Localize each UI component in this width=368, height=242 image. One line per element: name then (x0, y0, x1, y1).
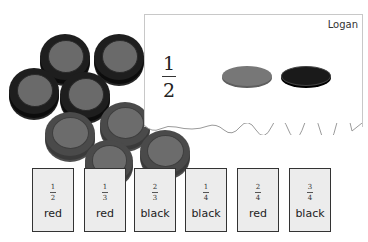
card-fraction: 3 4 (290, 183, 330, 202)
card-denominator: 4 (256, 194, 260, 202)
card-color-label: red (238, 207, 278, 220)
fraction-card[interactable]: 1 3 red (84, 168, 126, 232)
card-denominator: 4 (308, 194, 312, 202)
card-color-label: black (290, 207, 330, 220)
fraction-card[interactable]: 3 4 black (289, 168, 331, 232)
card-color-label: red (85, 207, 125, 220)
card-color-label: black (135, 207, 175, 220)
fraction-denominator: 2 (163, 79, 175, 101)
card-fraction: 1 4 (186, 183, 226, 202)
fraction-bar (162, 76, 176, 77)
card-color-label: black (186, 207, 226, 220)
black-coin-placed[interactable] (281, 66, 331, 86)
card-fraction: 1 2 (33, 183, 73, 202)
black-coin[interactable] (9, 68, 59, 114)
card-numerator: 1 (51, 183, 55, 191)
card-fraction: 2 4 (238, 183, 278, 202)
red-coin-placed[interactable] (222, 66, 272, 86)
card-numerator: 2 (153, 183, 157, 191)
card-fraction: 2 3 (135, 183, 175, 202)
card-denominator: 2 (51, 194, 55, 202)
answer-paper: Logan 1 2 (144, 14, 363, 127)
student-name: Logan (328, 19, 358, 30)
fraction-card[interactable]: 1 4 black (185, 168, 227, 232)
card-color-label: red (33, 207, 73, 220)
fraction-bar (255, 192, 261, 193)
fraction-bar (50, 192, 56, 193)
card-denominator: 3 (153, 194, 157, 202)
target-fraction: 1 2 (160, 53, 178, 100)
fraction-bar (203, 192, 209, 193)
card-numerator: 3 (308, 183, 312, 191)
black-coin[interactable] (94, 34, 144, 80)
card-numerator: 1 (204, 183, 208, 191)
card-fraction: 1 3 (85, 183, 125, 202)
card-numerator: 2 (256, 183, 260, 191)
card-numerator: 1 (103, 183, 107, 191)
card-denominator: 3 (103, 194, 107, 202)
fraction-card[interactable]: 2 3 black (134, 168, 176, 232)
fraction-card[interactable]: 2 4 red (237, 168, 279, 232)
fraction-numerator: 1 (163, 52, 175, 74)
card-denominator: 4 (204, 194, 208, 202)
fraction-bar (152, 192, 158, 193)
fraction-bar (102, 192, 108, 193)
fraction-bar (307, 192, 313, 193)
torn-edge (144, 123, 363, 135)
fraction-card[interactable]: 1 2 red (32, 168, 74, 232)
